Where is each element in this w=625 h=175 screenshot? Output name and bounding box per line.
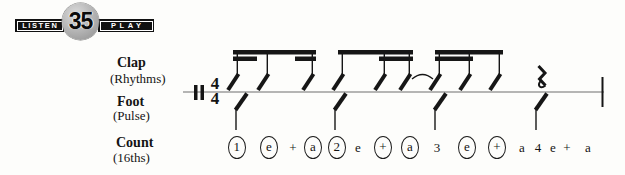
page: LISTEN PLAY 35 Clap (Rhythms) Foot (Puls… [0, 0, 625, 175]
begin-double-barline [194, 85, 198, 100]
begin-double-barline [201, 85, 205, 100]
foot-slash-notehead [536, 94, 548, 111]
track-number: 35 [69, 8, 93, 35]
track-number-circle: 35 [62, 3, 99, 40]
foot-slash-notehead [236, 94, 248, 111]
time-signature: 4 4 [205, 76, 225, 106]
beam [435, 57, 473, 62]
tie [412, 75, 433, 80]
foot-slash-notehead [335, 94, 347, 111]
foot-slash-notehead [435, 94, 447, 111]
beam [233, 50, 316, 55]
final-barline [602, 77, 604, 107]
beam [338, 50, 413, 55]
time-signature-bottom: 4 [205, 91, 225, 106]
